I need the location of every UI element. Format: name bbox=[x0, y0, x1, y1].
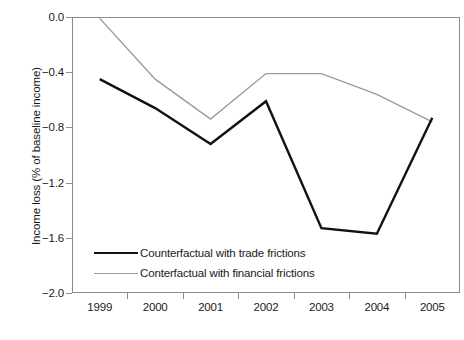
x-axis-tick-label: 2004 bbox=[349, 301, 405, 313]
y-axis-tick-label: −0.4 bbox=[20, 66, 64, 78]
x-axis-tick-label: 2000 bbox=[127, 301, 183, 313]
legend-line-swatch-financial-icon bbox=[94, 273, 138, 274]
x-axis-tick-mark bbox=[127, 293, 128, 299]
y-axis-tick-label: −1.6 bbox=[20, 232, 64, 244]
x-axis-tick-label: 1999 bbox=[72, 301, 128, 313]
legend-line-swatch-trade-icon bbox=[94, 252, 138, 254]
x-axis-tick-mark bbox=[183, 293, 184, 299]
legend-label-trade-frictions: Counterfactual with trade frictions bbox=[140, 247, 305, 259]
x-axis-tick-label: 2003 bbox=[293, 301, 349, 313]
x-axis-tick-mark bbox=[294, 293, 295, 299]
y-axis-tick-label: −2.0 bbox=[20, 287, 64, 299]
y-axis-tick-label: −0.8 bbox=[20, 121, 64, 133]
x-axis-tick-mark bbox=[349, 293, 350, 299]
x-axis-tick-mark bbox=[405, 293, 406, 299]
legend-item-financial-frictions: Conterfactual with financial frictions bbox=[94, 263, 315, 283]
y-axis-tick-label: −1.2 bbox=[20, 177, 64, 189]
chart-legend: Counterfactual with trade frictions Cont… bbox=[94, 243, 315, 283]
legend-label-financial-frictions: Conterfactual with financial frictions bbox=[140, 267, 315, 279]
x-axis-tick-mark bbox=[238, 293, 239, 299]
y-axis-tick-label: 0.0 bbox=[20, 11, 64, 23]
x-axis-tick-label: 2001 bbox=[183, 301, 239, 313]
legend-item-trade-frictions: Counterfactual with trade frictions bbox=[94, 243, 315, 263]
x-axis-tick-label: 2005 bbox=[404, 301, 460, 313]
y-axis-tick-mark bbox=[66, 293, 72, 294]
x-axis-tick-label: 2002 bbox=[238, 301, 294, 313]
chart-container: Income loss (% of baseline income) 0.0−0… bbox=[0, 0, 464, 340]
